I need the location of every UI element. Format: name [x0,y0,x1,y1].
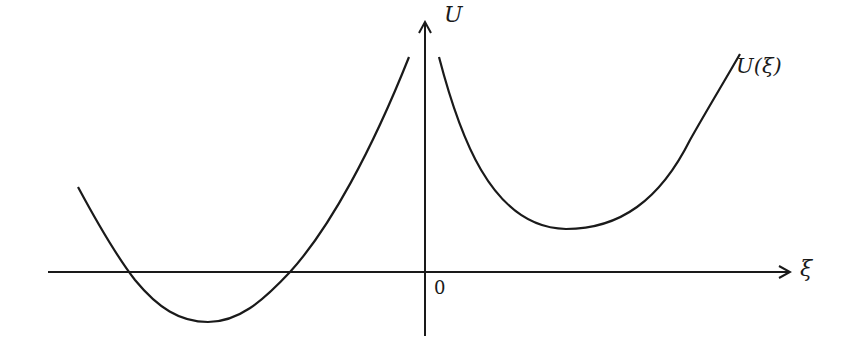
potential-diagram [0,0,863,352]
origin-label: 0 [434,277,445,298]
y-axis-label: U [444,2,463,27]
curve-label: U(ξ) [736,54,782,78]
x-axis-label: ξ [800,256,812,281]
curve-left-branch [78,57,409,322]
curve-right-branch [439,54,740,229]
